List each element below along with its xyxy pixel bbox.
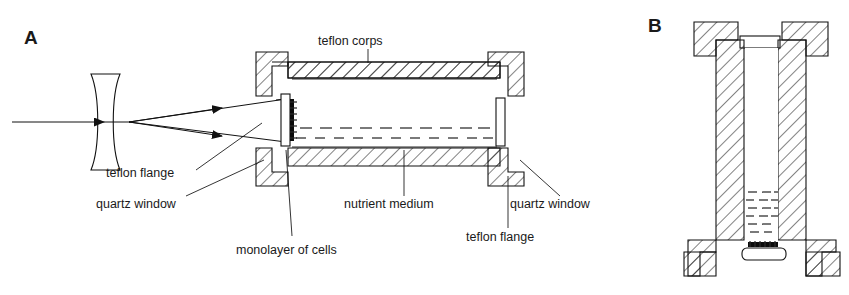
callout-nutrient-medium: nutrient medium (344, 197, 434, 211)
callout-teflon-flange-left: teflon flange (106, 166, 174, 180)
chamber-cavity-a (292, 79, 497, 147)
teflon-corps-top-wall-body (288, 62, 500, 78)
teflon-corps-bottom-wall (288, 148, 500, 166)
figure-container: A (0, 0, 849, 295)
chamber-body-a (256, 52, 524, 186)
panel-a-letter: A (24, 27, 38, 48)
quartz-window-b-top (740, 36, 780, 48)
diagram-svg: A (0, 0, 849, 295)
teflon-corps-b-left-wall (716, 40, 744, 240)
callout-quartz-window-left: quartz window (96, 197, 177, 211)
callout-monolayer: monolayer of cells (236, 243, 337, 257)
quartz-window-left (281, 94, 290, 146)
callout-quartz-window-right: quartz window (510, 197, 591, 211)
quartz-window-b-bottom (742, 248, 786, 260)
teflon-corps-b-right-wall (778, 40, 806, 240)
quartz-window-right (496, 98, 505, 146)
cell-monolayer-b (748, 242, 778, 247)
cell-monolayer-ticks (290, 102, 297, 138)
panel-b-letter: B (648, 15, 662, 36)
callout-teflon-flange-right: teflon flange (466, 230, 534, 244)
chamber-cavity-b (745, 48, 778, 244)
callout-teflon-corps: teflon corps (318, 34, 383, 48)
teflon-flange-b-bottom-right (806, 252, 840, 276)
teflon-flange-b-bottom-left (684, 252, 716, 276)
